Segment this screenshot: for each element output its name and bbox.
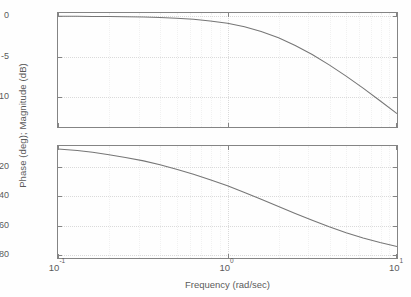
x-tick-exponent: 0	[230, 257, 234, 264]
y-tick-mark	[58, 226, 62, 227]
magnitude-curve-svg	[58, 13, 397, 127]
y-tick-mark	[58, 57, 62, 58]
magnitude-curve	[58, 16, 397, 113]
x-tick-mantissa: 10	[219, 262, 230, 273]
x-tick-label: 10-1	[49, 261, 65, 273]
phase-curve	[58, 149, 397, 247]
x-tick-mark-top	[228, 13, 229, 17]
x-tick-mark	[396, 254, 397, 258]
y-tick-mark-right	[393, 57, 397, 58]
y-tick-label: -80	[0, 249, 9, 259]
y-tick-mark	[58, 196, 62, 197]
y-tick-mark-right	[393, 196, 397, 197]
y-tick-mark-right	[393, 97, 397, 98]
x-tick-mark	[396, 123, 397, 127]
y-tick-mark	[58, 97, 62, 98]
x-tick-label: 100	[219, 261, 233, 273]
y-tick-mark-right	[393, 167, 397, 168]
y-tick-mark	[58, 167, 62, 168]
bode-plot-figure: Phase (deg); Magnitude (dB) 0-5-10-20-40…	[0, 0, 411, 297]
phase-curve-svg	[58, 146, 397, 258]
x-tick-mark-top	[58, 146, 59, 150]
x-tick-mantissa: 10	[389, 262, 400, 273]
x-tick-mark-top	[396, 146, 397, 150]
x-tick-mark-top	[228, 146, 229, 150]
x-tick-mark-top	[58, 13, 59, 17]
y-tick-label: -40	[0, 190, 9, 200]
y-tick-label: -5	[1, 51, 9, 61]
y-tick-mark-right	[393, 226, 397, 227]
y-axis-title: Phase (deg); Magnitude (dB)	[17, 16, 28, 236]
y-tick-label: -60	[0, 220, 9, 230]
x-tick-mark	[58, 123, 59, 127]
magnitude-plot-area	[58, 13, 397, 127]
x-tick-mantissa: 10	[49, 262, 60, 273]
phase-axes	[57, 145, 398, 259]
x-tick-label: 101	[389, 261, 403, 273]
x-tick-mark	[228, 123, 229, 127]
phase-plot-area	[58, 146, 397, 258]
magnitude-axes	[57, 12, 398, 128]
y-tick-label: -10	[0, 91, 9, 101]
x-tick-mark-top	[396, 13, 397, 17]
y-tick-label: 0	[4, 10, 9, 20]
x-axis-title: Frequency (rad/sec)	[57, 279, 398, 290]
x-tick-exponent: -1	[59, 257, 65, 264]
y-tick-label: -20	[0, 161, 9, 171]
x-tick-exponent: 1	[399, 257, 403, 264]
x-tick-mark	[228, 254, 229, 258]
